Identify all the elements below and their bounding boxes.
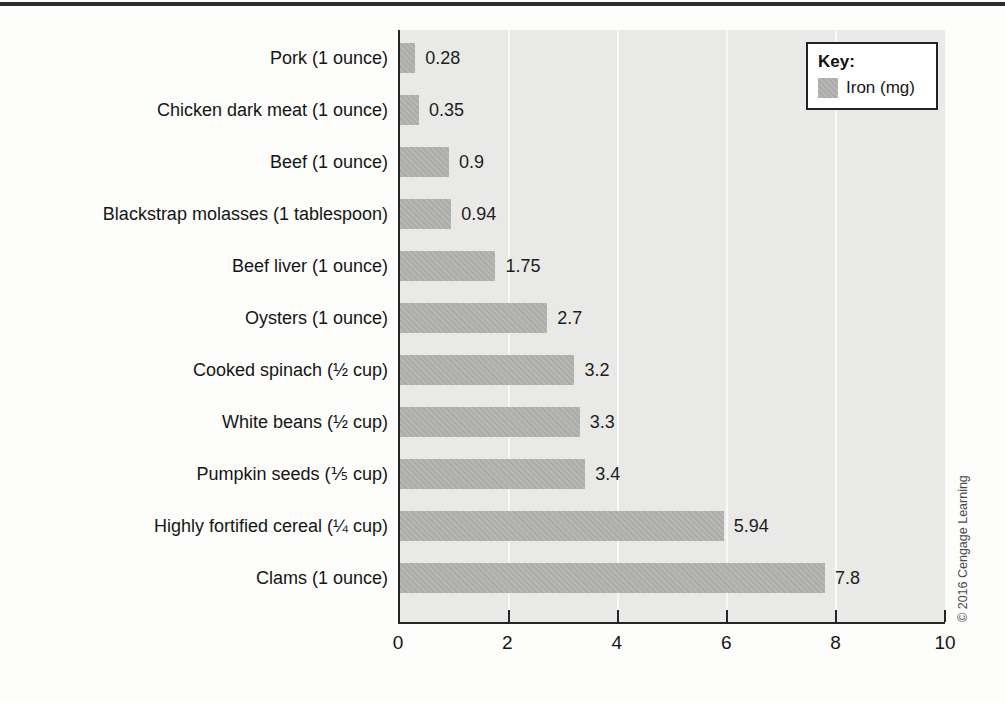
bar-value-label: 7.8 [835, 568, 860, 589]
plot-area: 0.280.350.90.941.752.73.23.33.45.947.8 [398, 30, 945, 624]
category-label: Cooked spinach (½ cup) [193, 360, 388, 381]
x-axis-tick [617, 610, 619, 622]
x-axis-tick [835, 610, 837, 622]
bar-value-label: 3.3 [590, 412, 615, 433]
bar-value-label: 0.94 [461, 204, 496, 225]
bar [400, 95, 419, 125]
x-axis-tick-label: 10 [934, 632, 955, 654]
category-label: White beans (½ cup) [222, 412, 388, 433]
x-axis-tick [726, 610, 728, 622]
legend-key: Key: Iron (mg) [806, 42, 938, 110]
bar [400, 303, 547, 333]
bar [400, 511, 724, 541]
category-label: Clams (1 ounce) [256, 568, 388, 589]
category-label: Pork (1 ounce) [270, 48, 388, 69]
category-label: Chicken dark meat (1 ounce) [157, 100, 388, 121]
x-axis-tick-label: 0 [393, 632, 404, 654]
top-rule [0, 2, 1005, 6]
category-label: Beef (1 ounce) [270, 152, 388, 173]
category-label: Highly fortified cereal (¼ cup) [154, 516, 388, 537]
category-labels: Pork (1 ounce)Chicken dark meat (1 ounce… [0, 30, 388, 624]
x-axis-tick [944, 610, 946, 622]
x-axis-tick-label: 2 [502, 632, 513, 654]
category-label: Blackstrap molasses (1 tablespoon) [103, 204, 388, 225]
legend-title: Key: [818, 52, 926, 72]
legend-row: Iron (mg) [818, 78, 926, 98]
bar-value-label: 5.94 [734, 516, 769, 537]
category-label: Pumpkin seeds (⅕ cup) [196, 463, 388, 485]
legend-series-label: Iron (mg) [846, 78, 915, 98]
bar-value-label: 0.35 [429, 100, 464, 121]
bar [400, 563, 825, 593]
bar-value-label: 3.4 [595, 464, 620, 485]
category-label: Oysters (1 ounce) [245, 308, 388, 329]
x-axis-tick-labels: 0246810 [398, 632, 945, 658]
bar-value-label: 2.7 [557, 308, 582, 329]
gridline [726, 30, 728, 622]
bar [400, 147, 449, 177]
x-axis-tick [508, 610, 510, 622]
gridline [835, 30, 837, 622]
bar [400, 407, 580, 437]
bar-value-label: 1.75 [505, 256, 540, 277]
category-label: Beef liver (1 ounce) [232, 256, 388, 277]
legend-swatch-icon [818, 78, 838, 98]
bar [400, 355, 574, 385]
x-axis-tick-label: 6 [721, 632, 732, 654]
bar [400, 459, 585, 489]
bar [400, 251, 495, 281]
bar-value-label: 0.28 [425, 48, 460, 69]
bar-value-label: 0.9 [459, 152, 484, 173]
x-axis-tick-label: 8 [830, 632, 841, 654]
x-axis-tick-label: 4 [612, 632, 623, 654]
bar [400, 199, 451, 229]
bar [400, 43, 415, 73]
copyright-credit: © 2016 Cengage Learning [956, 475, 970, 622]
bar-value-label: 3.2 [584, 360, 609, 381]
